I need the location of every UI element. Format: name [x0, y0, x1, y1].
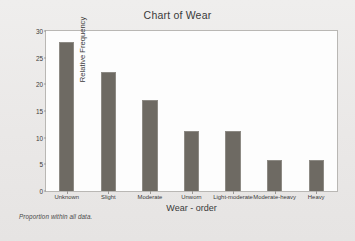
y-tick-label: 25 — [36, 54, 43, 61]
x-tick-label: Unknown — [55, 194, 80, 200]
bar[interactable] — [225, 131, 240, 191]
bar[interactable] — [309, 160, 324, 191]
plot-area: Relative Frequency 051015202530 UnknownS… — [45, 30, 338, 192]
y-tick-label: 10 — [36, 134, 43, 141]
bar[interactable] — [267, 160, 282, 191]
x-tick-label: Heavy — [308, 194, 325, 200]
chart-title: Chart of Wear — [0, 9, 355, 21]
y-tick-label: 30 — [36, 28, 43, 35]
bar[interactable] — [184, 131, 199, 191]
x-tick-label: Moderate-heavy — [253, 194, 296, 200]
bar[interactable] — [142, 100, 157, 191]
chart-footnote: Proportion within all data. — [19, 213, 92, 220]
y-tick-label: 0 — [39, 188, 43, 195]
y-tick-label: 5 — [39, 161, 43, 168]
x-axis-title: Wear - order — [46, 203, 337, 213]
chart-figure: Chart of Wear Relative Frequency 0510152… — [0, 0, 355, 241]
y-tick-label: 20 — [36, 81, 43, 88]
bars-layer — [46, 31, 337, 191]
bar[interactable] — [101, 72, 116, 191]
x-tick-label: Slight — [101, 194, 116, 200]
y-tick-label: 15 — [36, 108, 43, 115]
bar[interactable] — [59, 42, 74, 191]
x-tick-label: Unworn — [181, 194, 201, 200]
x-tick-label: Moderate — [137, 194, 162, 200]
x-tick-label: Light-moderate — [213, 194, 253, 200]
